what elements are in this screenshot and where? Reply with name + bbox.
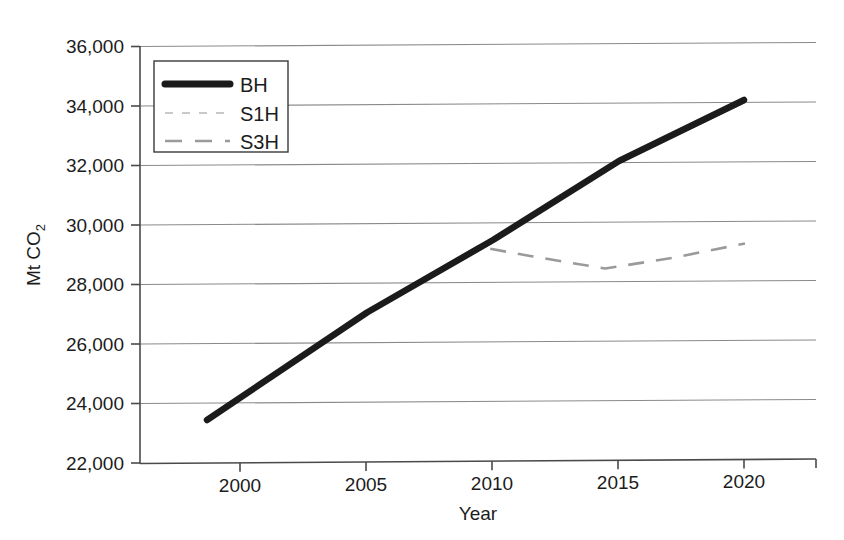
- y-axis-title: Mt CO2: [23, 224, 48, 286]
- x-tick-label-2020: 2020: [723, 471, 765, 492]
- svg-text:Mt CO2: Mt CO2: [23, 224, 48, 286]
- gridline-28000: [140, 281, 816, 285]
- chart-canvas: 36,000 34,000 32,000 30,000 28,000 26,00…: [0, 0, 844, 540]
- x-tick-label-2015: 2015: [597, 472, 639, 493]
- x-tick-label-2000: 2000: [219, 475, 261, 496]
- x-tick-label-2010: 2010: [471, 473, 513, 494]
- gridline-36000: [140, 43, 816, 47]
- series-line-s3h: [205, 244, 745, 421]
- y-tick-label-32000: 32,000: [66, 155, 124, 176]
- y-axis-title-main: Mt CO: [23, 231, 44, 286]
- gridline-32000: [140, 162, 816, 166]
- x-axis-line: [140, 459, 816, 464]
- y-tick-labels: 36,000 34,000 32,000 30,000 28,000 26,00…: [66, 36, 124, 474]
- gridline-26000: [140, 340, 816, 344]
- y-tick-marks: [131, 47, 140, 464]
- y-tick-label-28000: 28,000: [66, 274, 124, 295]
- y-tick-label-36000: 36,000: [66, 36, 124, 57]
- x-tick-label-2005: 2005: [345, 474, 387, 495]
- y-tick-label-30000: 30,000: [66, 215, 124, 236]
- legend-label-s1h: S1H: [240, 103, 279, 125]
- y-axis-title-subscript: 2: [33, 224, 48, 231]
- chart-figure: 36,000 34,000 32,000 30,000 28,000 26,00…: [0, 0, 844, 540]
- y-tick-label-34000: 34,000: [66, 96, 124, 117]
- legend-label-s3h: S3H: [240, 131, 279, 153]
- legend-label-bh: BH: [240, 74, 268, 96]
- y-tick-label-24000: 24,000: [66, 393, 124, 414]
- chart-legend: BH S1H S3H: [154, 61, 288, 153]
- x-tick-labels: 2000 2005 2010 2015 2020: [219, 471, 765, 496]
- y-tick-label-22000: 22,000: [66, 453, 124, 474]
- gridline-30000: [140, 221, 816, 225]
- y-tick-label-26000: 26,000: [66, 334, 124, 355]
- x-axis-title: Year: [459, 503, 498, 524]
